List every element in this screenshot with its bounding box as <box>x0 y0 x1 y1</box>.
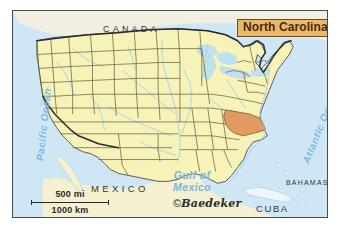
map-screenshot: CANADA MEXICO CUBA BAHAMAS Pacific Ocean… <box>0 0 340 228</box>
scale-bar-line <box>31 200 109 205</box>
copyright-text: Baedeker <box>181 197 241 210</box>
copyright-credit: ©Baedeker <box>173 197 241 210</box>
map-drawing <box>13 11 327 217</box>
scale-bar: 500 mi 1000 km <box>31 189 109 216</box>
scale-miles-label: 500 mi <box>31 189 109 200</box>
scale-kilometers-label: 1000 km <box>31 205 109 216</box>
title-plate-north-carolina: North Carolina <box>237 19 328 37</box>
map-frame: CANADA MEXICO CUBA BAHAMAS Pacific Ocean… <box>12 10 328 218</box>
